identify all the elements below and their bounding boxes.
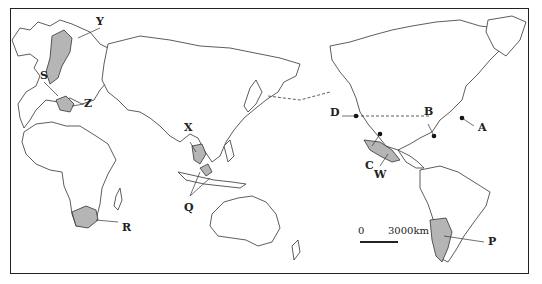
label-r: R [122,222,131,233]
label-x: X [184,122,193,133]
australia-coast [210,196,280,246]
label-q: Q [184,202,194,213]
world-map [0,0,542,284]
scale-bar [360,241,398,243]
label-c: C [365,160,374,171]
label-b: B [424,106,433,117]
leader-a [462,118,474,126]
label-w: W [374,169,386,180]
asia-coast [102,36,300,162]
label-p: P [488,236,496,247]
region-q-malaysia [200,164,212,176]
scale-distance: 3000km [388,226,429,236]
indonesia-islands [178,172,246,188]
south-america-coast [420,166,490,262]
africa-coast [22,122,116,226]
label-s: S [40,70,48,81]
new-zealand [292,240,300,260]
label-a: A [478,122,487,133]
aleutian-islands [268,92,330,100]
label-d: D [330,107,340,118]
label-z: Z [84,98,92,109]
label-y: Y [96,16,104,27]
leader-r [96,220,118,222]
central-america [398,150,424,168]
madagascar [114,188,122,210]
scale-zero: 0 [358,226,364,236]
